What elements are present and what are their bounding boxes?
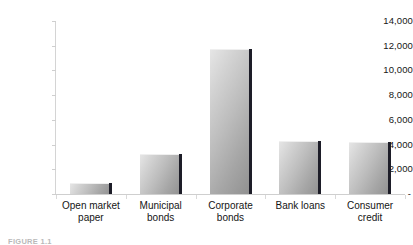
- bar-top-highlight: [349, 142, 391, 143]
- bar-top-highlight: [140, 154, 182, 155]
- bar-edge-shadow: [318, 141, 321, 194]
- bar-edge-shadow: [388, 142, 391, 194]
- plot-area: [56, 18, 405, 194]
- x-axis-category-label: Corporate bonds: [196, 200, 266, 223]
- bar-top-highlight: [279, 141, 321, 142]
- bar-top-highlight: [210, 49, 252, 50]
- bar: [140, 154, 182, 194]
- bar-top-highlight: [70, 183, 112, 184]
- x-axis-category-label: Consumer credit: [335, 200, 405, 223]
- x-axis-tick-mark: [196, 195, 197, 199]
- x-axis-tick-mark: [405, 195, 406, 199]
- x-axis-line: [55, 194, 405, 195]
- x-axis-tick-mark: [56, 195, 57, 199]
- bar-edge-shadow: [179, 154, 182, 194]
- bar-edge-shadow: [249, 49, 252, 194]
- x-axis-tick-mark: [265, 195, 266, 199]
- bar: [349, 142, 391, 194]
- x-axis-tick-mark: [126, 195, 127, 199]
- bar: [70, 183, 112, 194]
- figure-caption: FIGURE 1.1: [8, 238, 52, 245]
- bar-chart: -2,0004,0006,0008,00010,00012,00014,000 …: [0, 0, 413, 245]
- bar: [279, 141, 321, 194]
- x-axis-category-label: Open market paper: [56, 200, 126, 223]
- x-axis-tick-mark: [335, 195, 336, 199]
- x-axis-category-label: Bank loans: [265, 200, 335, 212]
- x-axis-category-label: Municipal bonds: [126, 200, 196, 223]
- bar: [210, 49, 252, 194]
- bar-edge-shadow: [109, 183, 112, 194]
